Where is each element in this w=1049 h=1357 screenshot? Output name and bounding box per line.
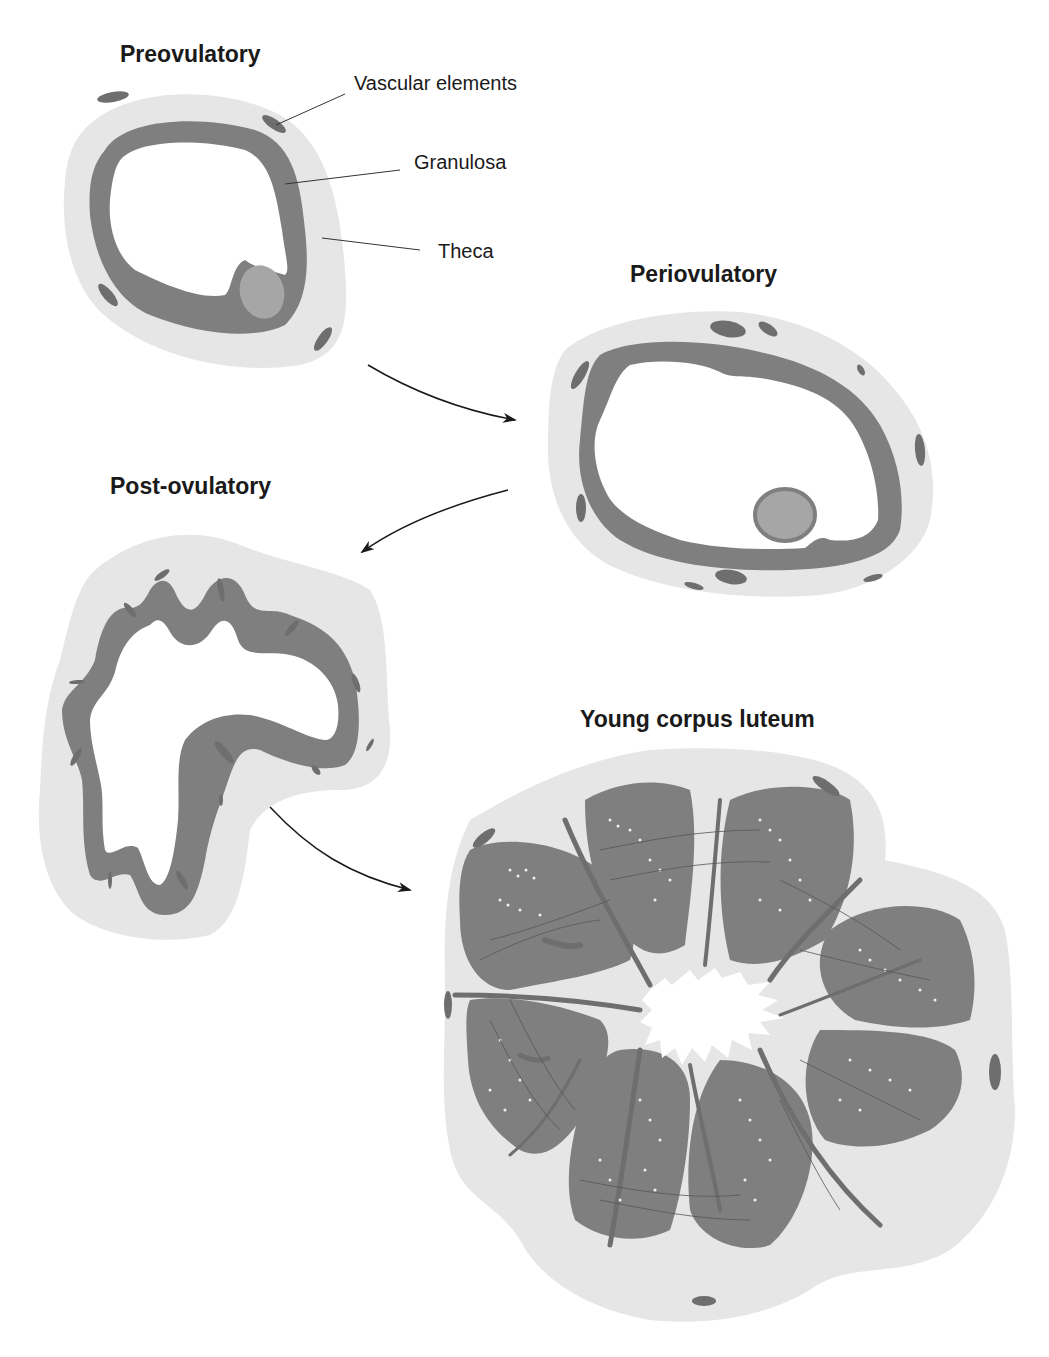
- stage-title-preovulatory: Preovulatory: [120, 41, 261, 67]
- vascular-element: [576, 494, 586, 522]
- periovulatory-follicle: Periovulatory: [548, 261, 933, 597]
- arrow-post-to-corpus-luteum: [270, 807, 410, 890]
- arrow-peri-to-post: [362, 490, 508, 552]
- oocyte: [755, 489, 815, 541]
- post-ovulatory-follicle: Post-ovulatory: [39, 473, 390, 940]
- arrow-pre-to-peri: [368, 365, 515, 420]
- luteal-lobe: [820, 906, 975, 1027]
- vascular-element: [219, 794, 223, 806]
- label-vascular-elements: Vascular elements: [354, 72, 517, 94]
- stage-title-periovulatory: Periovulatory: [630, 261, 777, 287]
- vascular-element: [692, 1296, 716, 1306]
- ovarian-follicle-diagram: Preovulatory Vascular elements Granulosa…: [0, 0, 1049, 1357]
- stage-title-post-ovulatory: Post-ovulatory: [110, 473, 271, 499]
- preovulatory-follicle: Preovulatory Vascular elements Granulosa…: [64, 41, 517, 368]
- vascular-element: [989, 1054, 1001, 1090]
- vascular-element: [444, 991, 452, 1019]
- vascular-element: [108, 871, 112, 889]
- vascular-element: [96, 89, 129, 104]
- leader-line-vascular: [276, 94, 345, 125]
- label-granulosa: Granulosa: [414, 151, 507, 173]
- label-theca: Theca: [438, 240, 494, 262]
- stage-title-young-corpus-luteum: Young corpus luteum: [580, 706, 815, 732]
- young-corpus-luteum: Young corpus luteum: [444, 706, 1015, 1322]
